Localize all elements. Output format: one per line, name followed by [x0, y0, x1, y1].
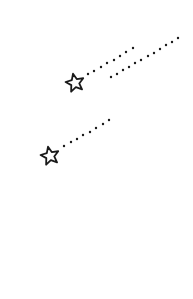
trail-dot — [100, 66, 102, 68]
shooting-star-2-star-icon — [41, 147, 59, 165]
stars — [41, 74, 84, 165]
trail-dot — [110, 76, 112, 78]
trail-dot — [122, 69, 124, 71]
dotted-trails — [63, 37, 179, 147]
trail-dot — [89, 131, 91, 133]
trail-dot — [95, 127, 97, 129]
trail-dot — [116, 73, 118, 75]
trail-dot — [177, 37, 179, 39]
trail-dot — [76, 138, 78, 140]
trail-dot — [119, 55, 121, 57]
trail-dot — [106, 62, 108, 64]
trail-dot — [140, 59, 142, 61]
trail-dot — [128, 66, 130, 68]
trail-dot — [159, 48, 161, 50]
trail-dot — [125, 51, 127, 53]
trail-dot — [63, 145, 65, 147]
shooting-star-1-star-icon — [66, 74, 84, 92]
trail-star-2 — [63, 119, 110, 147]
trail-star-1-upper — [87, 47, 134, 75]
trail-dot — [70, 141, 72, 143]
trail-dot — [153, 52, 155, 54]
trail-dot — [108, 119, 110, 121]
trail-dot — [93, 70, 95, 72]
trail-dot — [132, 47, 134, 49]
trail-dot — [165, 44, 167, 46]
trail-dot — [87, 73, 89, 75]
trail-star-1-lower — [110, 37, 179, 78]
trail-dot — [171, 41, 173, 43]
trail-dot — [102, 123, 104, 125]
trail-dot — [113, 59, 115, 61]
trail-dot — [134, 62, 136, 64]
trail-dot — [82, 134, 84, 136]
shooting-stars-illustration — [0, 0, 193, 299]
trail-dot — [147, 55, 149, 57]
